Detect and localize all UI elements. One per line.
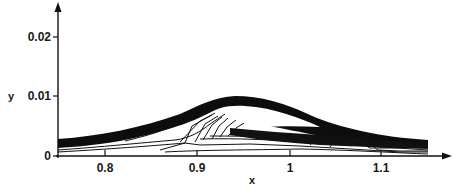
x-tick-label: 0.8 [97, 161, 114, 175]
y-axis-arrow-icon [55, 2, 62, 12]
x-ticks [105, 150, 381, 156]
y-tick-label: 0.02 [28, 30, 52, 44]
x-tick-label: 0.9 [189, 161, 206, 175]
x-tick-label: 1.1 [373, 161, 390, 175]
x-axis-arrow-icon [442, 153, 452, 160]
x-axis-label: x [249, 174, 256, 186]
x-tick-label: 1 [287, 161, 294, 175]
y-tick-label: 0.01 [28, 89, 52, 103]
y-ticks [53, 37, 58, 156]
y-axis-label: y [8, 90, 15, 102]
chart-plot: 0.02 0.01 0 y 0.8 0.9 1 1.1 x [0, 0, 459, 193]
y-tick-label: 0 [44, 149, 51, 163]
